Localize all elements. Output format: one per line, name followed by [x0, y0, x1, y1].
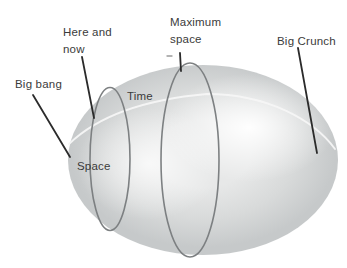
- time-axis-label: Time: [127, 88, 153, 105]
- big-crunch-pointer: [298, 48, 317, 153]
- here-and-now-pointer: [82, 57, 94, 118]
- maximum-space-pointer: [180, 53, 181, 71]
- space-axis-label: Space: [77, 158, 111, 175]
- here-and-now-label-line1: Here and: [63, 24, 112, 41]
- maximum-space-label-line1: Maximum: [170, 14, 221, 31]
- maximum-space-label: Maximum space: [170, 14, 221, 47]
- cosmology-spacetime-diagram: Big bang Here and now Maximum space Big …: [0, 0, 347, 268]
- here-and-now-label: Here and now: [63, 24, 112, 57]
- space-circle-maximum: [161, 63, 219, 257]
- big-bang-label: Big bang: [15, 76, 62, 93]
- maximum-space-label-line2: space: [170, 31, 221, 48]
- big-crunch-label: Big Crunch: [277, 33, 336, 50]
- here-and-now-label-line2: now: [63, 41, 112, 58]
- big-bang-pointer: [33, 95, 70, 157]
- time-line: [69, 94, 335, 149]
